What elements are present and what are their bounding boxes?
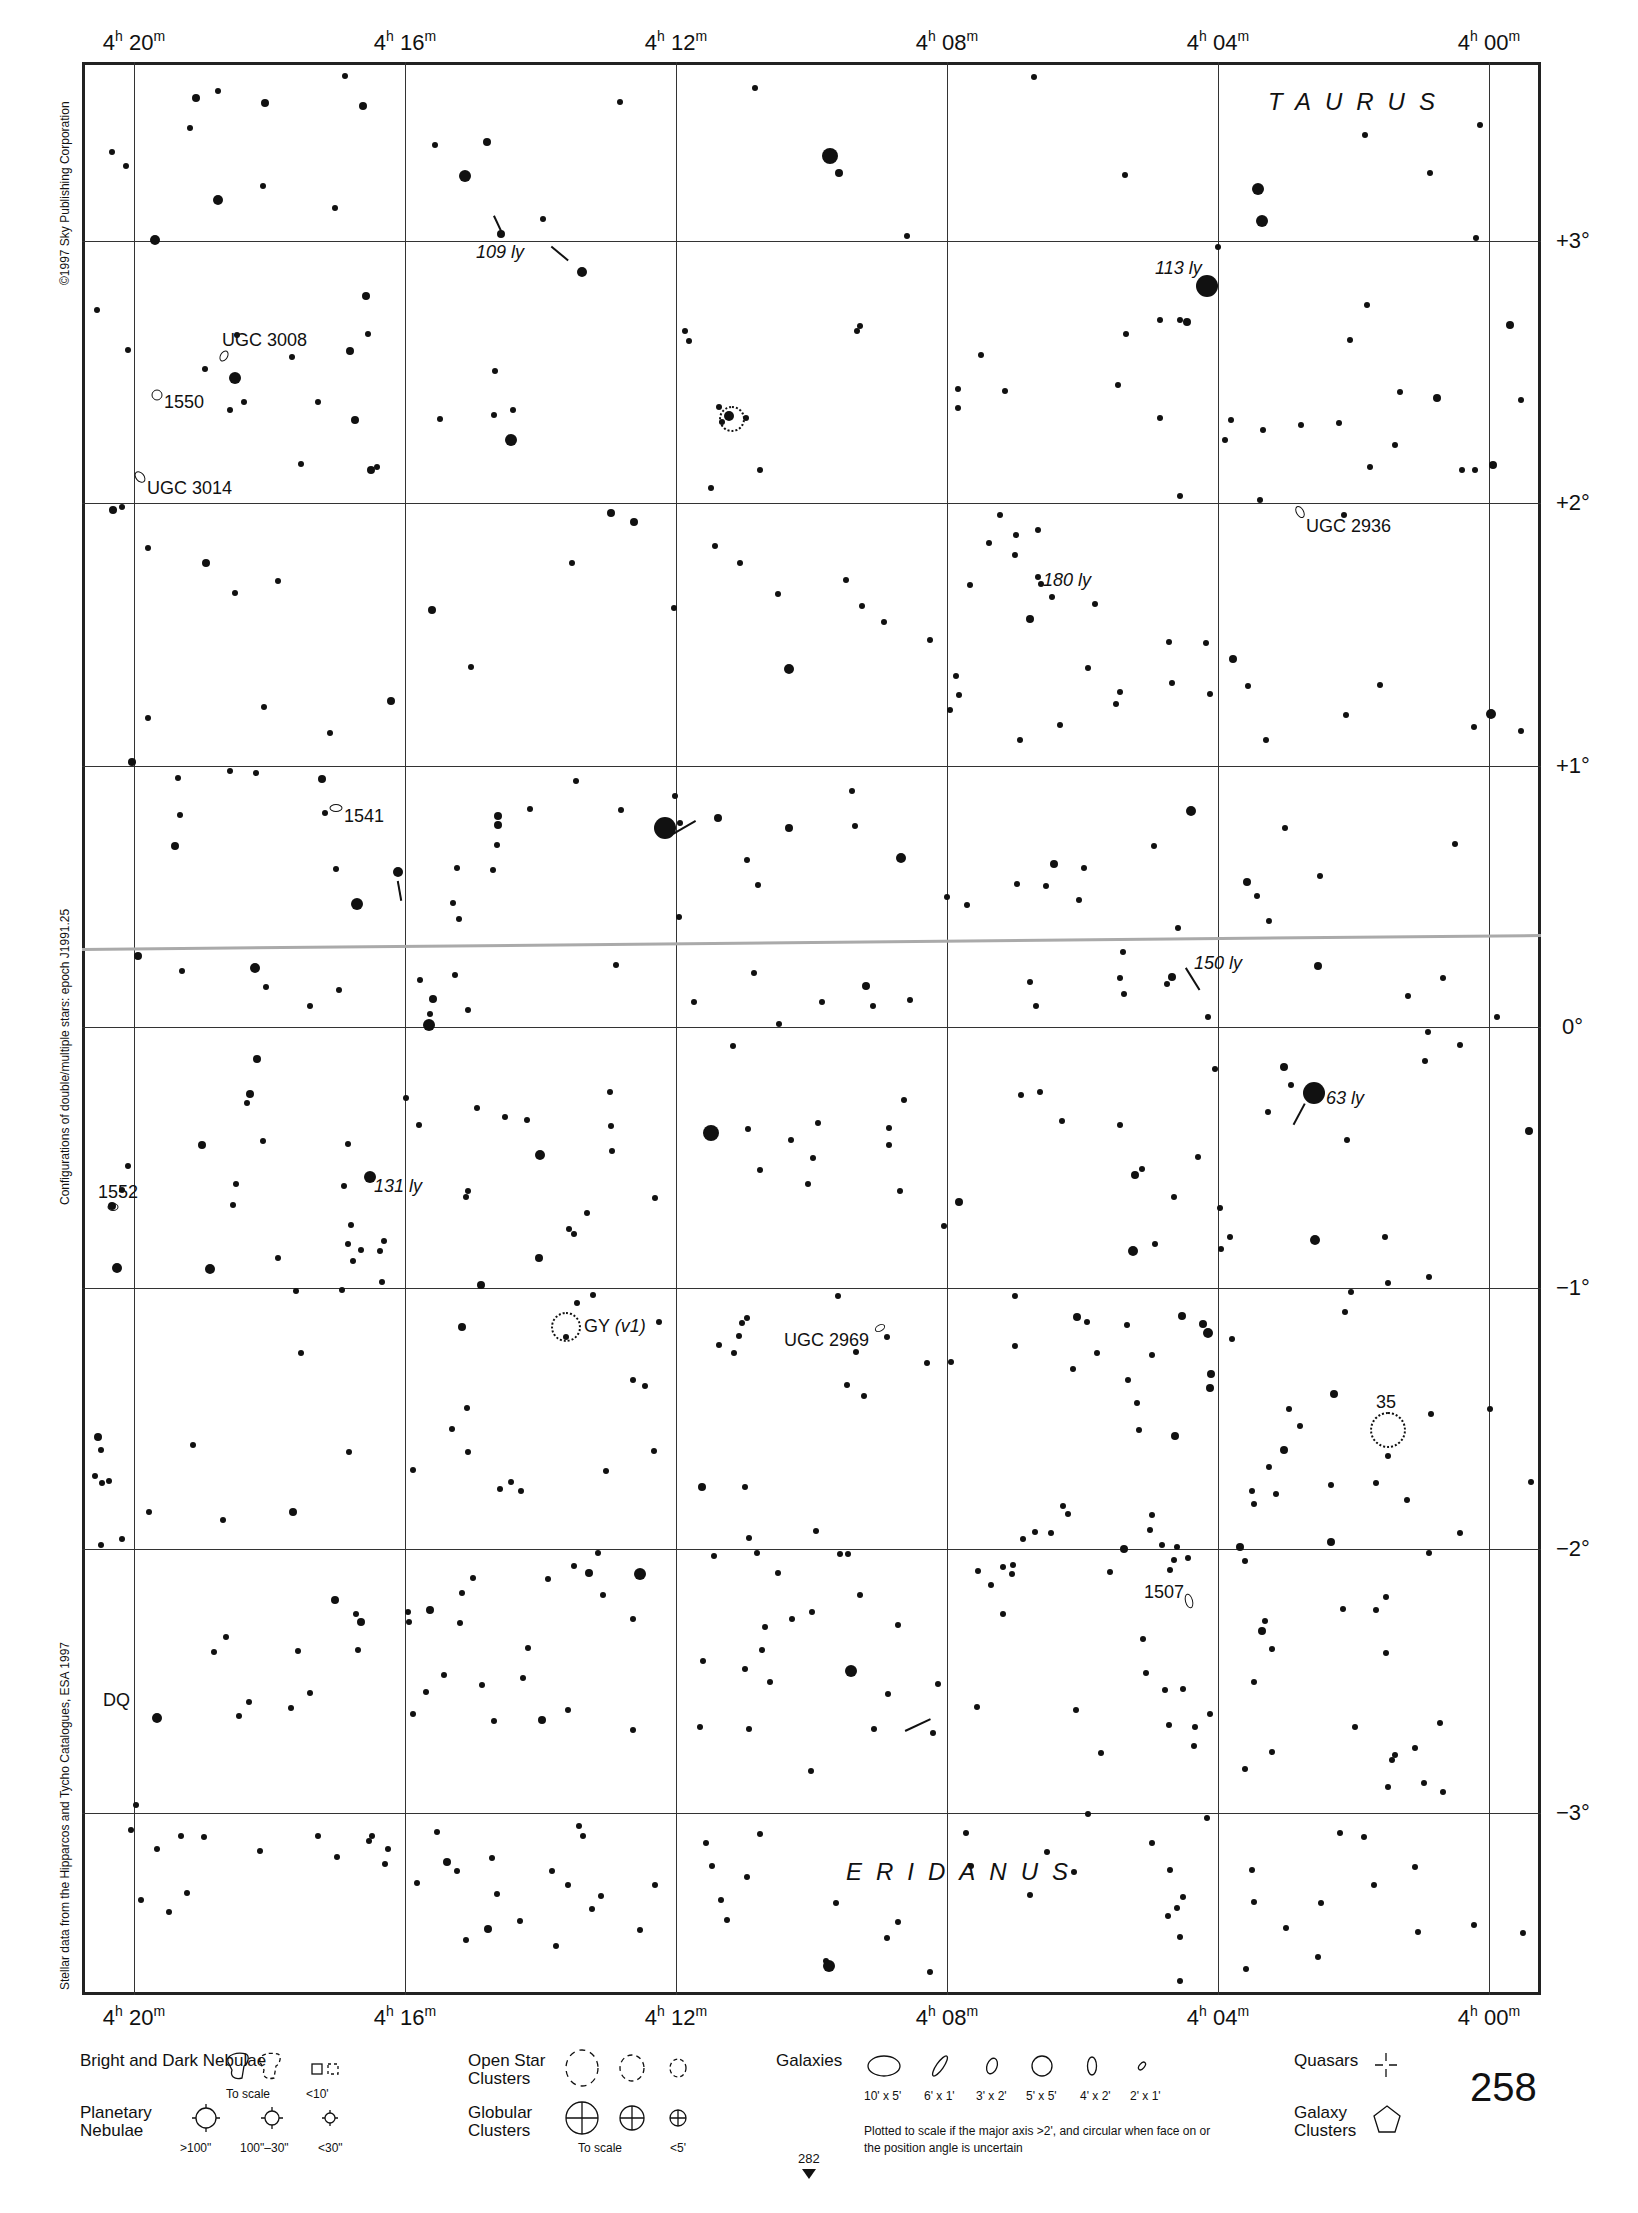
star	[637, 1927, 643, 1933]
star	[1120, 949, 1126, 955]
star	[263, 984, 269, 990]
star	[275, 578, 281, 584]
star	[1257, 497, 1263, 503]
star	[1134, 1400, 1140, 1406]
star	[494, 842, 500, 848]
star	[757, 1831, 763, 1837]
star	[671, 605, 677, 611]
star	[745, 1126, 751, 1132]
star	[613, 962, 619, 968]
star	[112, 1263, 122, 1273]
star	[246, 1699, 252, 1705]
star	[709, 1863, 715, 1869]
next-page-number: 282	[798, 2151, 820, 2166]
ra-label-top-4h12m: 4h 12m	[645, 30, 707, 56]
star	[862, 982, 870, 990]
star	[1364, 302, 1370, 308]
star	[700, 1658, 706, 1664]
star	[505, 434, 517, 446]
star	[315, 1833, 321, 1839]
star	[1486, 709, 1496, 719]
star	[1263, 737, 1269, 743]
star	[988, 1582, 994, 1588]
star	[1159, 1542, 1165, 1548]
star	[410, 1711, 416, 1717]
star	[190, 1442, 196, 1448]
star	[1175, 925, 1181, 931]
star	[1057, 722, 1063, 728]
star	[465, 1449, 471, 1455]
star	[106, 1478, 112, 1484]
star	[1310, 1235, 1320, 1245]
star	[1207, 1711, 1213, 1717]
star	[571, 1231, 577, 1237]
star	[1440, 975, 1446, 981]
constellation-eridanus: ERIDANUS	[846, 1858, 1082, 1886]
star	[736, 1333, 742, 1339]
arrow-down-icon	[802, 2169, 816, 2179]
star	[1000, 1564, 1006, 1570]
legend-globular-small: <5'	[670, 2141, 686, 2155]
star	[897, 1188, 903, 1194]
star	[708, 485, 714, 491]
star	[1280, 1446, 1288, 1454]
star	[813, 1528, 819, 1534]
star	[1392, 442, 1398, 448]
star	[134, 952, 142, 960]
star	[1317, 873, 1323, 879]
ra-label-top-4h16m: 4h 16m	[374, 30, 436, 56]
star	[517, 1918, 523, 1924]
star	[1342, 1309, 1348, 1315]
star	[1012, 1293, 1018, 1299]
dec-gridline-0	[82, 1027, 1541, 1028]
ra-label-bottom-4h20m: 4h 20m	[103, 2005, 165, 2031]
star	[322, 810, 328, 816]
star	[1121, 991, 1127, 997]
label-1552: 1552	[98, 1182, 138, 1203]
legend-globular-title: Globular Clusters	[468, 2104, 558, 2140]
star	[1362, 132, 1368, 138]
star	[755, 882, 761, 888]
star	[746, 1535, 752, 1541]
dec-gridline-minus3	[82, 1813, 1541, 1814]
star	[298, 1350, 304, 1356]
star	[465, 1007, 471, 1013]
legend-galaxy-size-2: 6' x 1'	[924, 2089, 955, 2103]
legend-planetary-size-medium: 100"–30"	[240, 2141, 289, 2155]
label-1550: 1550	[164, 392, 204, 413]
star	[1010, 1562, 1016, 1568]
star	[837, 1551, 843, 1557]
star	[565, 1707, 571, 1713]
star	[1222, 437, 1228, 443]
star	[1242, 1558, 1248, 1564]
star	[1032, 1529, 1038, 1535]
star	[585, 1569, 593, 1577]
star	[227, 768, 233, 774]
star	[494, 821, 502, 829]
star	[1243, 1966, 1249, 1972]
star	[584, 1210, 590, 1216]
star	[1254, 893, 1260, 899]
star	[1117, 975, 1123, 981]
star	[784, 664, 794, 674]
star	[450, 900, 456, 906]
star	[901, 1097, 907, 1103]
star	[152, 1713, 162, 1723]
star	[336, 987, 342, 993]
star	[1044, 1849, 1050, 1855]
star	[497, 1486, 503, 1492]
star	[463, 1937, 469, 1943]
star	[577, 267, 587, 277]
star	[428, 606, 436, 614]
star	[672, 793, 678, 799]
star	[1012, 1343, 1018, 1349]
star	[775, 591, 781, 597]
next-page-reference[interactable]: 282	[798, 2150, 820, 2179]
star	[845, 1551, 851, 1557]
star	[381, 1238, 387, 1244]
star	[652, 1195, 658, 1201]
star	[1205, 1014, 1211, 1020]
star	[924, 1360, 930, 1366]
dec-gridline-plus1	[82, 766, 1541, 767]
star	[1050, 860, 1058, 868]
